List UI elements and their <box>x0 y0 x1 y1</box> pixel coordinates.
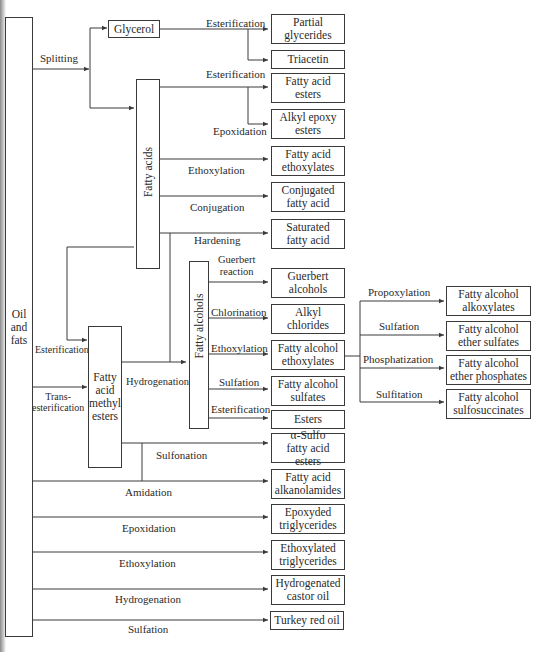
process-fa-hardening: Hardening <box>194 234 240 246</box>
process-sulfitation: Sulfitation <box>376 388 422 400</box>
product-ethoxylated-triglycerides: Ethoxylated triglycerides <box>271 540 345 570</box>
process-sulfonation: Sulfonation <box>156 449 207 461</box>
product-fatty-acid-alkanolamides: Fatty acid alkanolamides <box>271 469 345 499</box>
product-alkyl-epoxy-esters: Alkyl epoxy esters <box>271 109 345 139</box>
product-fatty-alcohol-sulfates: Fatty alcohol sulfates <box>271 376 345 406</box>
source-label-line: fats <box>11 334 28 347</box>
product-fatty-acid-esters: Fatty acid esters <box>271 73 345 103</box>
product-epoxyded-triglycerides: Epoxyded triglycerides <box>271 504 345 534</box>
product-fatty-alcohol-ethoxylates: Fatty alcohol ethoxylates <box>271 340 345 370</box>
process-propoxylation: Propoxylation <box>368 286 430 298</box>
fame-label-line: esters <box>92 410 118 423</box>
process-oil-epoxidation: Epoxidation <box>122 522 176 534</box>
process-fame-hydrogenation: Hydrogenation <box>126 376 189 388</box>
product-fatty-alcohol-alkoxylates: Fatty alcohol alkoxylates <box>446 286 531 316</box>
product-esters: Esters <box>271 410 345 429</box>
fame-label-line: methyl <box>89 397 121 410</box>
product-conjugated-fatty-acid: Conjugated fatty acid <box>271 182 345 212</box>
process-chlorination: Chlorination <box>211 306 267 318</box>
process-falc-sulfation: Sulfation <box>219 376 259 388</box>
process-transesterification: Trans- esterification <box>32 391 84 413</box>
process-falc-ethoxylation: Ethoxylation <box>211 342 268 354</box>
process-falc-esterification: Esterification <box>211 403 270 415</box>
fatty-alcohols-label: Fatty alcohols <box>193 291 205 361</box>
process-phosphatization: Phosphatization <box>363 353 433 365</box>
process-ether-sulfation: Sulfation <box>379 320 419 332</box>
product-turkey-red-oil: Turkey red oil <box>270 611 344 630</box>
fame-label-line: Fatty <box>93 371 117 384</box>
process-fa-esterification: Esterification <box>206 68 265 80</box>
product-partial-glycerides: Partial glycerides <box>271 14 345 44</box>
process-fa-to-fame-esterification: Esterification <box>35 344 89 356</box>
process-fa-ethoxylation: Ethoxylation <box>188 164 245 176</box>
product-guerbert-alcohols: Guerbert alcohols <box>271 268 345 298</box>
process-oil-hydrogenation: Hydrogenation <box>115 593 181 605</box>
process-amidation: Amidation <box>125 486 172 498</box>
fame-box: Fatty acid methyl esters <box>88 326 122 468</box>
fame-label-line: acid <box>95 384 114 397</box>
source-label-line: and <box>11 321 28 334</box>
process-oil-sulfation: Sulfation <box>128 623 168 635</box>
product-fatty-alcohol-ether-sulfates: Fatty alcohol ether sulfates <box>446 321 531 351</box>
product-alkyl-chlorides: Alkyl chlorides <box>271 304 345 334</box>
process-fa-conjugation: Conjugation <box>190 201 244 213</box>
fatty-acids-label: Fatty acids <box>142 142 154 202</box>
process-oil-ethoxylation: Ethoxylation <box>119 557 176 569</box>
process-glycerol-esterification: Esterification <box>206 17 265 29</box>
process-guerbert-reaction: Guerbert reaction <box>218 254 255 278</box>
oil-and-fats-box: Oil and fats <box>5 17 33 637</box>
product-triacetin: Triacetin <box>271 50 345 69</box>
process-fa-epoxidation: Epoxidation <box>213 125 267 137</box>
process-splitting: Splitting <box>40 52 78 64</box>
source-label-line: Oil <box>12 308 27 321</box>
glycerol-label: Glycerol <box>114 23 154 36</box>
product-alpha-sulfo-fatty-acid-esters: α-Sulfo fatty acid esters <box>271 433 345 463</box>
product-fatty-alcohol-sulfosuccinates: Fatty alcohol sulfosuccinates <box>446 389 531 419</box>
glycerol-box: Glycerol <box>108 20 160 38</box>
product-fatty-alcohol-ether-phosphates: Fatty alcohol ether phosphates <box>446 355 531 385</box>
product-hydrogenated-castor-oil: Hydrogenated castor oil <box>271 575 345 605</box>
product-fatty-acid-ethoxylates: Fatty acid ethoxylates <box>271 146 345 176</box>
product-saturated-fatty-acid: Saturated fatty acid <box>271 219 345 249</box>
